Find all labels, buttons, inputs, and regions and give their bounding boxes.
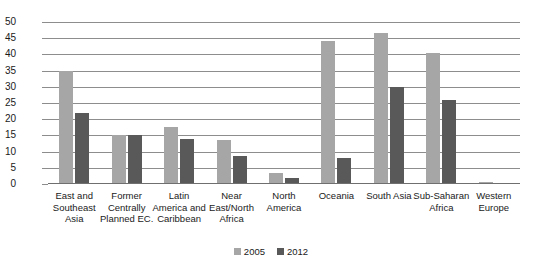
y-axis-tick-label: 50 [0,17,16,27]
bar-group [153,22,205,184]
bar [374,33,388,184]
y-axis-tick-label: 45 [0,33,16,43]
bar-group [258,22,310,184]
category-label-line: Latin [149,190,209,202]
bar [180,139,194,184]
y-axis-tick-mark [42,87,48,88]
bar-group [363,22,415,184]
y-axis-tick-mark [42,22,48,23]
bar [233,156,247,184]
y-axis-tick-label: 5 [0,163,16,173]
category-label-line: Africa [411,202,471,214]
bar-chart: 50454035302520151050 East andSoutheastAs… [0,0,542,265]
y-axis-tick-mark [42,38,48,39]
x-axis-line [48,183,520,184]
y-axis-tick-label: 15 [0,130,16,140]
category-label-line: Asia [44,213,104,225]
category-label-line: Former [96,190,156,202]
y-axis-tick-mark [42,71,48,72]
legend-entry[interactable]: 2012 [277,246,308,257]
bar-group [100,22,152,184]
category-label-line: Europe [464,202,524,214]
x-axis-category-label: South Asia [359,190,419,202]
category-label-line: Western [464,190,524,202]
category-label-line: Near [201,190,261,202]
bar-group [48,22,100,184]
bar-group [468,22,520,184]
x-axis-category-label: Sub-SaharanAfrica [411,190,471,213]
y-axis-tick-label: 20 [0,114,16,124]
x-axis-category-label: WesternEurope [464,190,524,213]
chart-legend: 20052012 [0,246,542,257]
category-label-line: East and [44,190,104,202]
y-axis-tick-mark [42,119,48,120]
bar [426,53,440,184]
bar-group [310,22,362,184]
category-label-line: Planned EC. [96,213,156,225]
bar [390,87,404,184]
bar [164,127,178,184]
y-axis-tick-label: 10 [0,147,16,157]
bar-group [415,22,467,184]
bar [442,100,456,184]
category-label-line: Southeast [44,202,104,214]
category-label-line: South Asia [359,190,419,202]
plot-area [48,22,520,184]
category-label-line: Oceania [306,190,366,202]
category-label-line: Caribbean [149,213,209,225]
x-axis-category-label: Oceania [306,190,366,202]
category-label-line: Sub-Saharan [411,190,471,202]
category-label-line: North [254,190,314,202]
category-label-line: East/North [201,202,261,214]
y-axis-tick-mark [42,54,48,55]
x-axis-category-label: NorthAmerica [254,190,314,213]
bar [337,158,351,184]
bar-groups [48,22,520,184]
category-label-line: Africa [201,213,261,225]
bar [59,71,73,184]
bar [217,140,231,184]
x-axis-category-labels: East andSoutheastAsiaFormerCentrallyPlan… [48,190,520,242]
category-label-line: Centrally [96,202,156,214]
legend-swatch-icon [234,248,241,255]
y-axis-tick-mark [42,152,48,153]
legend-swatch-icon [277,248,284,255]
category-label-line: America [254,202,314,214]
legend-entry[interactable]: 2005 [234,246,265,257]
y-axis-tick-label: 25 [0,98,16,108]
y-axis-tick-mark [42,103,48,104]
bar [75,113,89,184]
bar-group [205,22,257,184]
y-axis-tick-label: 40 [0,49,16,59]
x-axis-category-label: FormerCentrallyPlanned EC. [96,190,156,225]
legend-label: 2012 [287,246,308,257]
category-label-line: America and [149,202,209,214]
bar [321,41,335,184]
bar [112,135,126,184]
x-axis-category-label: LatinAmerica andCaribbean [149,190,209,225]
y-axis-tick-label: 0 [0,179,16,189]
y-axis-tick-label: 35 [0,66,16,76]
x-axis-category-label: NearEast/NorthAfrica [201,190,261,225]
y-axis-tick-mark [42,184,48,185]
legend-label: 2005 [244,246,265,257]
y-axis-tick-mark [42,135,48,136]
bar [128,135,142,184]
y-axis-tick-mark [42,168,48,169]
x-axis-category-label: East andSoutheastAsia [44,190,104,225]
y-axis-tick-label: 30 [0,82,16,92]
